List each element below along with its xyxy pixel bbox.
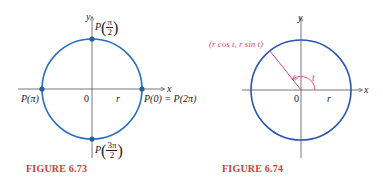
origin-label: 0 <box>84 94 89 104</box>
point-top-label: P(π2) <box>95 18 118 37</box>
point-right-label: P(0) = P(2π) <box>144 94 196 104</box>
origin-label: 0 <box>294 94 299 104</box>
denominator: 2 <box>110 151 115 160</box>
figure-caption: FIGURE 6.73 <box>26 163 87 174</box>
radius-line <box>270 51 301 90</box>
point-left <box>39 86 44 91</box>
denominator: 2 <box>107 28 112 37</box>
angle-label: t <box>312 73 315 83</box>
y-axis-label: y <box>86 12 90 22</box>
y-axis-label: y <box>298 13 302 23</box>
figure-6-73-graph <box>18 17 164 158</box>
close-paren: ) <box>113 19 118 36</box>
radius-label: r <box>116 94 120 104</box>
fraction: 3π2 <box>106 141 117 160</box>
point-bottom-label: P(3π2) <box>95 141 123 160</box>
radius-label: r <box>327 94 331 104</box>
figure-caption: FIGURE 6.74 <box>222 163 283 174</box>
figures-canvas <box>0 0 383 178</box>
point-right <box>139 86 144 91</box>
point-label: (r cos t, r sin t) <box>209 40 263 49</box>
close-paren: ) <box>117 142 122 159</box>
point-top <box>89 36 94 41</box>
point-bottom <box>89 136 94 141</box>
point-left-label: P(π) <box>21 94 39 104</box>
x-axis-label: x <box>364 85 368 95</box>
